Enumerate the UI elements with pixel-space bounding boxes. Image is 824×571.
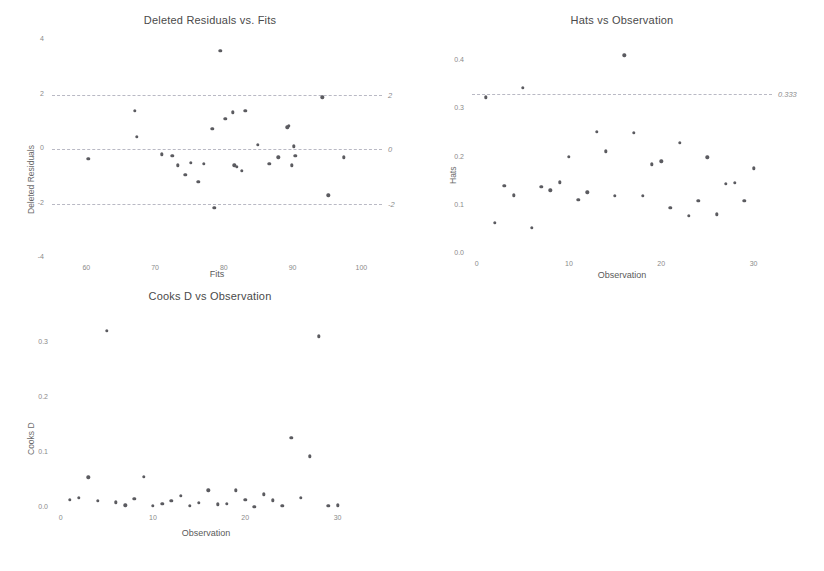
data-point [540,185,543,188]
data-point [202,162,205,165]
data-point [124,504,127,507]
data-point [660,160,663,163]
y-axis-tick: 0.4 [430,56,464,63]
y-axis-tick: 2 [10,90,44,97]
data-point [189,161,192,164]
data-point [179,494,182,497]
chart-title: Cooks D vs Observation [0,290,420,302]
data-point [317,334,320,337]
data-point [706,155,709,158]
data-point [733,181,736,184]
plot-area: 0.3330.40.30.20.10.00102030 [472,42,772,254]
y-axis-tick: 0.0 [430,249,464,256]
data-point [197,501,200,504]
data-point [287,124,290,127]
y-axis-tick: 0 [10,144,44,151]
data-point [197,180,200,183]
data-point [327,504,330,507]
scatter-layer: 20-2420-2-460708090100 [52,40,382,258]
data-point [342,155,345,158]
data-point [171,154,174,157]
data-point [253,505,256,508]
data-point [160,502,163,505]
reference-line-label: 0.333 [778,89,797,98]
data-point [256,143,259,146]
x-axis-tick: 0 [46,514,76,521]
data-point [240,169,243,172]
data-point [133,497,136,500]
data-point [243,109,246,112]
data-point [224,117,227,120]
y-axis-tick: 0.3 [430,104,464,111]
data-point [320,96,323,99]
data-point [225,502,228,505]
data-point [586,191,589,194]
data-point [96,499,99,502]
data-point [290,436,293,439]
data-point [142,475,145,478]
y-axis-tick: 0.1 [430,201,464,208]
data-point [327,194,330,197]
reference-line [52,149,382,150]
x-axis-tick: 10 [554,260,584,267]
chart-panel-hats: Hats vs Observation Hats 0.3330.40.30.20… [420,14,824,285]
data-point [292,145,295,148]
data-point [271,499,274,502]
data-point [151,504,154,507]
data-point [219,49,222,52]
x-axis-label: Observation [56,528,356,538]
data-point [558,181,561,184]
x-axis-tick: 30 [323,514,353,521]
data-point [290,164,293,167]
data-point [231,111,234,114]
data-point [595,130,598,133]
scatter-layer: 0.3330.40.30.20.10.00102030 [472,42,772,254]
x-axis-tick: 0 [462,260,492,267]
data-point [484,96,487,99]
data-point [724,182,727,185]
data-point [184,173,187,176]
reference-line [472,94,772,95]
data-point [512,194,515,197]
data-point [678,141,681,144]
y-axis-tick: 0.2 [14,393,48,400]
data-point [268,162,271,165]
data-point [170,499,173,502]
reference-line-label: 0 [388,145,392,154]
data-point [160,153,163,156]
data-point [632,131,635,134]
data-point [235,165,238,168]
x-axis-label: Observation [472,270,772,280]
data-point [503,184,506,187]
data-point [188,504,191,507]
data-point [105,329,108,332]
data-point [336,504,339,507]
data-point [276,155,279,158]
data-point [216,502,219,505]
data-point [210,127,213,130]
y-axis-tick: 0.1 [14,448,48,455]
y-axis-tick: -4 [10,253,44,260]
data-point [114,501,117,504]
y-axis-tick: 0.3 [14,338,48,345]
reference-line [52,204,382,205]
data-point [650,163,653,166]
data-point [262,493,265,496]
data-point [244,498,247,501]
data-point [613,194,616,197]
data-point [294,154,297,157]
data-point [213,206,216,209]
data-point [521,86,524,89]
x-axis-tick: 30 [739,260,769,267]
data-point [299,496,302,499]
data-point [623,54,626,57]
chart-title: Hats vs Observation [420,14,824,26]
data-point [135,135,138,138]
data-point [308,455,311,458]
y-axis-tick: 0.0 [14,503,48,510]
data-point [549,189,552,192]
y-axis-tick: 0.2 [430,153,464,160]
data-point [576,198,579,201]
data-point [68,498,71,501]
scatter-layer: 0.30.20.10.00102030 [56,318,356,508]
